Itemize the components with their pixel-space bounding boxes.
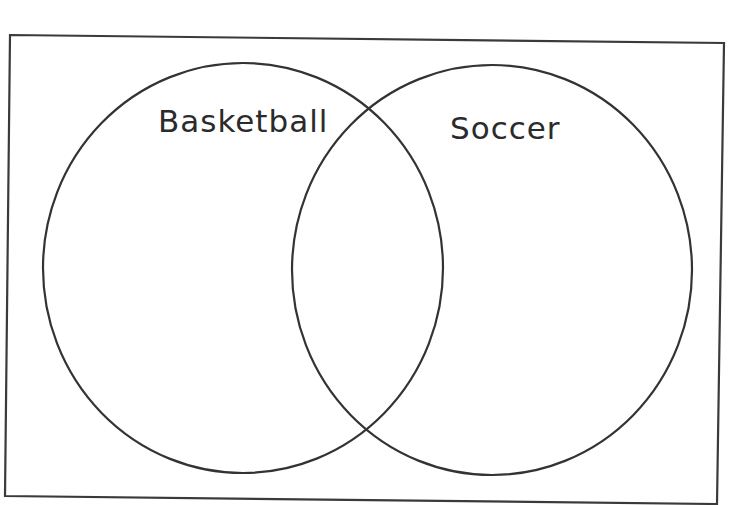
soccer-label: Soccer [450, 113, 561, 144]
basketball-label: Basketball [158, 106, 328, 137]
venn-diagram-canvas [0, 0, 735, 505]
